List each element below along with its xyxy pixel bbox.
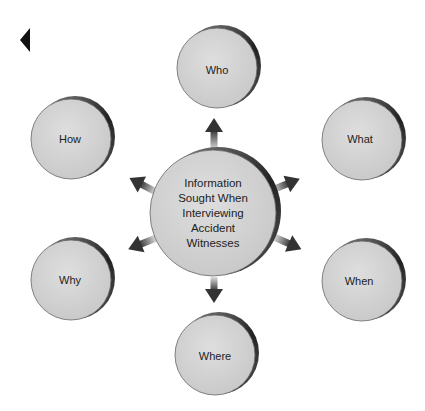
node-label-where: Where	[199, 350, 231, 362]
node-label-who: Who	[206, 64, 229, 76]
center-line-4: Accident	[163, 221, 263, 236]
node-label-how: How	[59, 133, 81, 145]
center-line-3: Interviewing	[163, 206, 263, 221]
center-label: Information Sought When Interviewing Acc…	[163, 176, 263, 251]
arrow-to-who	[205, 118, 223, 150]
node-label-why: Why	[59, 274, 81, 286]
center-line-2: Sought When	[163, 191, 263, 206]
node-label-when: When	[345, 275, 374, 287]
center-line-1: Information	[163, 176, 263, 191]
node-label-what: What	[347, 133, 373, 145]
center-line-5: Witnesses	[163, 236, 263, 251]
arrow-to-where	[205, 277, 223, 303]
